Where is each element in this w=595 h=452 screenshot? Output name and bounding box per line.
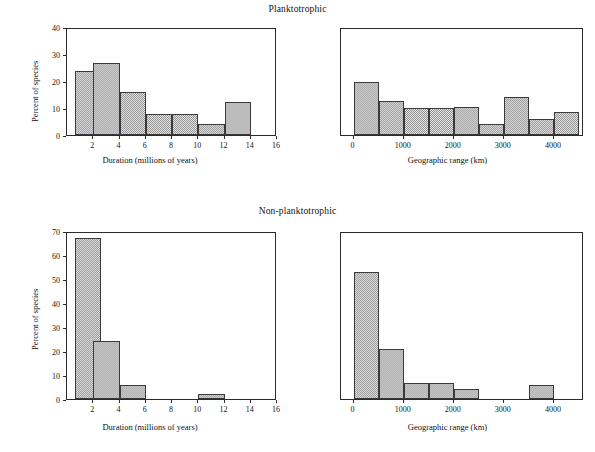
histogram-bar <box>93 341 119 399</box>
x-axis-tick-label: 4 <box>117 405 121 414</box>
histogram-bar <box>120 92 146 135</box>
x-axis-tick-label: 14 <box>246 405 254 414</box>
x-axis-tick-label: 12 <box>220 141 228 150</box>
histogram-bar <box>429 383 454 399</box>
x-axis-tick-label: 0 <box>351 405 355 414</box>
histogram-bar <box>479 124 504 135</box>
histogram-bar <box>146 114 172 135</box>
x-axis-title-non-planktotrophic-duration: Duration (millions of years) <box>0 422 300 432</box>
x-axis-tick-label: 6 <box>143 405 147 414</box>
histogram-bar <box>529 119 554 135</box>
y-axis-tick-label: 40 <box>42 24 60 33</box>
x-axis-tick-label: 16 <box>272 141 280 150</box>
x-axis-tick <box>553 136 554 139</box>
histogram-bar <box>529 385 554 399</box>
y-axis-tick <box>63 304 66 305</box>
x-axis-tick <box>453 136 454 139</box>
x-axis-tick-label: 4 <box>117 141 121 150</box>
x-axis-tick <box>503 136 504 139</box>
y-axis-tick <box>63 82 66 83</box>
histogram-bar <box>454 389 479 399</box>
x-axis-tick <box>403 400 404 403</box>
x-axis-title-planktotrophic-range: Geographic range (km) <box>300 155 595 165</box>
y-axis-tick <box>63 328 66 329</box>
x-axis-tick-label: 8 <box>169 141 173 150</box>
y-axis-tick-label: 50 <box>42 276 60 285</box>
x-axis-tick <box>171 400 172 403</box>
y-axis-tick-label: 20 <box>42 78 60 87</box>
y-axis-tick <box>63 232 66 233</box>
histogram-bar <box>454 107 479 135</box>
x-axis-tick <box>503 400 504 403</box>
x-axis-tick-label: 1000 <box>395 141 411 150</box>
histogram-bar <box>404 108 429 135</box>
x-axis-tick <box>92 136 93 139</box>
bars-non-planktotrophic-range <box>341 233 582 399</box>
x-axis-tick-label: 14 <box>246 141 254 150</box>
y-axis-tick-label: 70 <box>42 228 60 237</box>
plot-area-planktotrophic-duration <box>66 28 276 136</box>
x-axis-tick-label: 8 <box>169 405 173 414</box>
x-axis-tick <box>92 400 93 403</box>
x-axis-tick-label: 2000 <box>445 405 461 414</box>
x-axis-tick <box>453 400 454 403</box>
histogram-bar <box>504 97 529 135</box>
histogram-bar <box>198 394 224 399</box>
x-axis-tick-label: 10 <box>193 141 201 150</box>
x-axis-tick <box>276 400 277 403</box>
x-axis-tick-label: 4000 <box>545 405 561 414</box>
x-axis-tick <box>119 400 120 403</box>
x-axis-tick-label: 3000 <box>495 141 511 150</box>
histogram-bar <box>172 114 198 135</box>
y-axis-tick-label: 20 <box>42 348 60 357</box>
x-axis-tick-label: 12 <box>220 405 228 414</box>
histogram-bar <box>429 108 454 135</box>
x-axis-tick-label: 4000 <box>545 141 561 150</box>
y-axis-tick <box>63 376 66 377</box>
histogram-bar <box>354 272 379 399</box>
x-axis-tick-label: 2 <box>90 405 94 414</box>
panel-non-planktotrophic-duration: 246810121416010203040506070 Duration (mi… <box>0 200 300 452</box>
x-axis-tick <box>250 136 251 139</box>
y-axis-tick-label: 30 <box>42 51 60 60</box>
x-axis-tick <box>224 400 225 403</box>
histogram-bar <box>554 112 579 135</box>
y-axis-tick-label: 0 <box>42 132 60 141</box>
y-axis-tick <box>63 109 66 110</box>
panel-group-planktotrophic: Planktotrophic 246810121416010203040 Dur… <box>0 0 595 200</box>
bars-non-planktotrophic-duration <box>67 233 275 399</box>
x-axis-tick <box>553 400 554 403</box>
x-axis-tick-label: 2000 <box>445 141 461 150</box>
y-axis-title-non-planktotrophic-duration: Percent of species <box>30 289 40 350</box>
histogram-bar <box>198 124 224 135</box>
x-axis-tick <box>197 400 198 403</box>
y-axis-tick-label: 10 <box>42 105 60 114</box>
histogram-bar <box>93 63 119 135</box>
panel-non-planktotrophic-range: 01000200030004000 Geographic range (km) <box>300 200 595 452</box>
x-axis-tick <box>197 136 198 139</box>
histogram-bar <box>379 349 404 399</box>
y-axis-tick <box>63 400 66 401</box>
histogram-bar <box>404 383 429 399</box>
y-axis-tick <box>63 280 66 281</box>
y-axis-tick <box>63 136 66 137</box>
y-axis-tick <box>63 55 66 56</box>
y-axis-tick-label: 0 <box>42 396 60 405</box>
y-axis-tick <box>63 28 66 29</box>
x-axis-tick <box>353 400 354 403</box>
x-axis-tick-label: 16 <box>272 405 280 414</box>
plot-area-non-planktotrophic-range <box>340 232 583 400</box>
histogram-bar <box>354 82 379 135</box>
y-axis-tick-label: 10 <box>42 372 60 381</box>
x-axis-title-non-planktotrophic-range: Geographic range (km) <box>300 422 595 432</box>
x-axis-tick <box>353 136 354 139</box>
x-axis-tick <box>145 136 146 139</box>
y-axis-tick-label: 60 <box>42 252 60 261</box>
figure-root: Planktotrophic 246810121416010203040 Dur… <box>0 0 595 452</box>
panel-group-non-planktotrophic: Non-planktotrophic 246810121416010203040… <box>0 200 595 452</box>
histogram-bar <box>225 102 251 135</box>
y-axis-tick-label: 40 <box>42 300 60 309</box>
y-axis-tick-label: 30 <box>42 324 60 333</box>
x-axis-tick <box>276 136 277 139</box>
x-axis-tick-label: 6 <box>143 141 147 150</box>
